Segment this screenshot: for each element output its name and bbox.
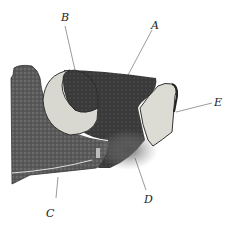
label-a: A [151,20,159,31]
label-b: B [61,12,69,23]
label-e: E [214,97,222,108]
anatomical-illustration [0,0,231,227]
label-d: D [144,194,153,205]
label-c: C [46,208,54,219]
